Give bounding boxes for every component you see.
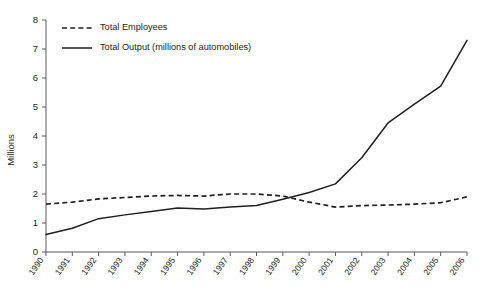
x-tick-label: 1990 (26, 255, 45, 277)
y-tick-label: 0 (33, 246, 38, 257)
series-line (46, 40, 467, 234)
x-axis: 1990199119921993199419951996199719981999… (26, 252, 467, 277)
x-tick-label: 1993 (105, 255, 124, 277)
chart-container: 012345678 199019911992199319941995199619… (0, 0, 499, 299)
y-tick-label: 2 (33, 188, 38, 199)
y-tick-label: 1 (33, 217, 38, 228)
x-tick-label: 2004 (395, 255, 414, 277)
x-tick-label: 1992 (79, 255, 98, 277)
x-tick-label: 1996 (184, 255, 203, 277)
x-tick-label: 1994 (132, 255, 151, 277)
x-tick-label: 1999 (263, 255, 282, 277)
x-tick-label: 2005 (421, 255, 440, 277)
x-tick-label: 1991 (53, 255, 72, 277)
x-tick-label: 1998 (237, 255, 256, 277)
chart-legend: Total EmployeesTotal Output (millions of… (62, 22, 251, 52)
x-tick-label: 1995 (158, 255, 177, 277)
x-tick-label: 2002 (342, 255, 361, 277)
y-axis-title: Millions (5, 134, 16, 166)
y-tick-label: 5 (33, 101, 38, 112)
legend-label: Total Output (millions of automobiles) (100, 42, 251, 52)
y-tick-label: 8 (33, 14, 38, 25)
x-tick-label: 1997 (211, 255, 230, 277)
x-tick-label: 2001 (316, 255, 335, 277)
x-tick-label: 2000 (290, 255, 309, 277)
line-chart: 012345678 199019911992199319941995199619… (0, 0, 499, 299)
x-tick-label: 2006 (447, 255, 466, 277)
y-tick-label: 7 (33, 43, 38, 54)
y-axis: 012345678 (33, 14, 46, 257)
series-lines (46, 40, 467, 234)
y-tick-label: 3 (33, 159, 38, 170)
legend-label: Total Employees (100, 22, 168, 32)
x-tick-label: 2003 (369, 255, 388, 277)
y-tick-label: 4 (33, 130, 38, 141)
y-tick-label: 6 (33, 72, 38, 83)
